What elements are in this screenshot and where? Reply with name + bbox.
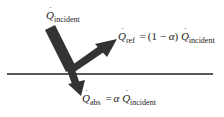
heat-transfer-diagram: ˙Qincident ˙Qref =(1 − α) ˙Qincident ˙Qa… (0, 0, 224, 117)
equals-sign: = (103, 92, 113, 104)
absorbed-label: ˙Qabs =α ˙Qincident (82, 93, 156, 108)
reflected-subscript: ref (126, 36, 135, 45)
incident-subscript: incident (54, 15, 80, 24)
q-dot-symbol: ˙Q (122, 93, 130, 104)
q-dot-symbol: ˙Q (181, 31, 189, 42)
reflected-arrow (68, 39, 117, 73)
incident-arrow (45, 25, 76, 72)
equals-sign: = (138, 30, 148, 42)
alpha-symbol: α (114, 92, 120, 104)
q-dot-symbol: ˙Q (46, 10, 54, 21)
minus-sign: − (160, 30, 166, 42)
q-dot-symbol: ˙Q (118, 31, 126, 42)
incident-subscript: incident (130, 98, 156, 107)
factor-open: (1 (148, 30, 157, 42)
absorbed-subscript: abs (90, 98, 101, 107)
factor-close: ) (174, 30, 178, 42)
incident-label: ˙Qincident (46, 10, 80, 25)
q-dot-symbol: ˙Q (82, 93, 90, 104)
reflected-label: ˙Qref =(1 − α) ˙Qincident (118, 31, 215, 46)
incident-subscript: incident (189, 36, 215, 45)
